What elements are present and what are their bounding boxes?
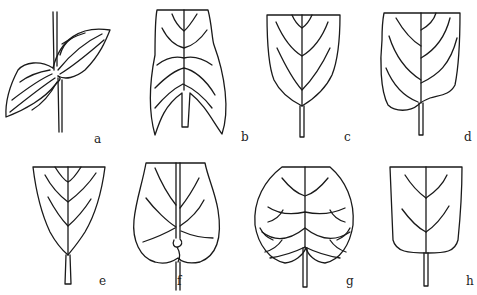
panel-label-a: a: [94, 133, 101, 145]
leaf-g-drawing: [255, 167, 353, 287]
leaf-diagram: [0, 0, 477, 295]
leaf-f-drawing: [134, 163, 220, 290]
leaf-e-drawing: [33, 167, 105, 284]
leaf-b-drawing: [150, 10, 225, 135]
panel-label-b: b: [241, 131, 249, 143]
panel-label-c: c: [344, 131, 351, 143]
panel-label-d: d: [464, 131, 472, 143]
panel-label-h: h: [466, 275, 474, 287]
panel-label-e: e: [99, 275, 106, 287]
leaf-h-drawing: [390, 167, 462, 286]
leaf-d-drawing: [381, 13, 460, 135]
panel-label-f: f: [177, 275, 181, 287]
panel-label-g: g: [346, 275, 354, 287]
leaf-c-drawing: [267, 15, 340, 137]
leaf-a-drawing: [6, 12, 110, 132]
